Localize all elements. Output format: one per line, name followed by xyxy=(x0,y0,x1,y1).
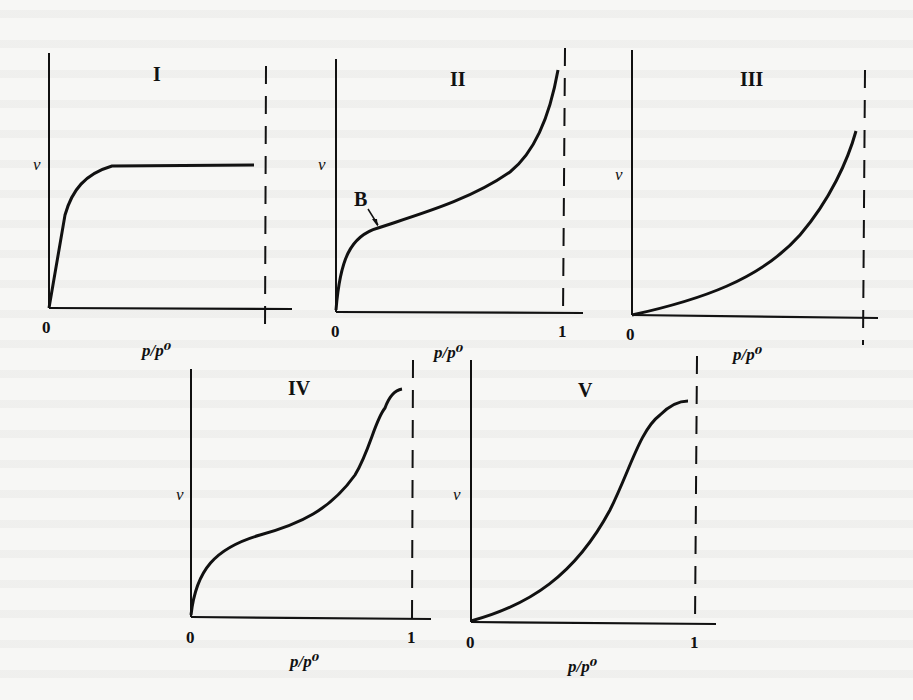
y-axis-label: v xyxy=(615,165,623,184)
annotation-B: B xyxy=(354,188,367,210)
panel-IV: IV v 0 1 p/p⁰ xyxy=(176,360,431,671)
panel-label: II xyxy=(450,68,466,90)
isotherm-curve xyxy=(191,389,402,615)
x-axis xyxy=(471,622,716,624)
panel-III: III v 0 p/p⁰ xyxy=(615,50,878,364)
x-axis xyxy=(336,312,583,313)
arrowhead-icon xyxy=(372,219,378,227)
x-tick-origin: 0 xyxy=(331,322,340,341)
panel-I: I v 0 p/p⁰ xyxy=(33,53,292,360)
x-axis xyxy=(632,315,878,318)
x-axis-label: p/p⁰ xyxy=(288,652,320,671)
panel-V: V v 0 1 p/p⁰ xyxy=(453,356,716,676)
isotherm-curve xyxy=(632,131,856,315)
x-tick-origin: 0 xyxy=(186,628,195,647)
x-axis-label: p/p⁰ xyxy=(731,345,763,364)
x-tick-origin: 0 xyxy=(466,633,475,652)
x-tick-origin: 0 xyxy=(626,325,635,344)
saturation-dashed-line xyxy=(412,360,413,623)
y-axis-label: v xyxy=(453,485,461,504)
isotherm-figure: I v 0 p/p⁰ B II v 0 1 p/p⁰ III v 0 p/p⁰ … xyxy=(0,0,913,700)
x-axis xyxy=(191,617,431,619)
x-axis-label: p/p⁰ xyxy=(432,343,464,362)
y-axis-label: v xyxy=(33,155,41,174)
isotherm-curve xyxy=(471,401,688,621)
panel-label: III xyxy=(740,68,764,90)
x-axis-label: p/p⁰ xyxy=(566,657,598,676)
saturation-dashed-line xyxy=(863,70,865,345)
saturation-dashed-line xyxy=(563,48,565,318)
y-axis-label: v xyxy=(318,155,326,174)
y-axis-label: v xyxy=(176,485,184,504)
saturation-dashed-line xyxy=(695,356,697,625)
x-axis xyxy=(49,308,292,309)
x-tick-one: 1 xyxy=(690,633,699,652)
isotherm-curve xyxy=(49,165,254,308)
x-tick-origin: 0 xyxy=(42,318,51,337)
panel-label: V xyxy=(578,379,593,401)
panel-label: IV xyxy=(288,377,311,399)
panel-label: I xyxy=(153,63,161,85)
isotherm-curve xyxy=(336,70,558,310)
x-tick-one: 1 xyxy=(558,322,567,341)
saturation-dashed-line xyxy=(265,66,266,336)
panel-II: B II v 0 1 p/p⁰ xyxy=(318,48,583,362)
x-axis-label: p/p⁰ xyxy=(140,341,172,360)
x-tick-one: 1 xyxy=(407,628,416,647)
